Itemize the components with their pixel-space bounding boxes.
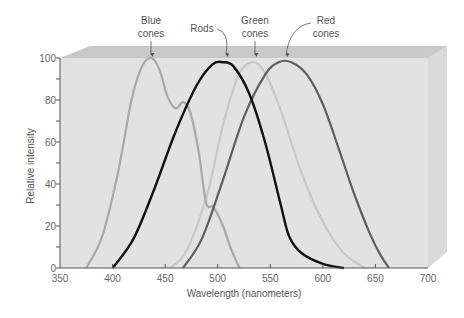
x-tick-label: 450 xyxy=(157,273,174,284)
y-ticks: 020406080100 xyxy=(39,53,60,274)
box-top-face xyxy=(60,46,447,58)
label-green-cones-line2: cones xyxy=(242,28,269,39)
label-red-cones-line2: cones xyxy=(313,28,340,39)
y-tick-label: 60 xyxy=(45,137,57,148)
label-rods: Rods xyxy=(190,23,213,34)
x-tick-label: 600 xyxy=(315,273,332,284)
label-green-cones-line1: Green xyxy=(241,15,269,26)
plot-area xyxy=(60,58,428,268)
x-tick-label: 400 xyxy=(104,273,121,284)
x-tick-label: 350 xyxy=(52,273,69,284)
label-red-cones-line1: Red xyxy=(317,15,335,26)
y-tick-label: 20 xyxy=(45,221,57,232)
y-tick-label: 80 xyxy=(45,95,57,106)
y-tick-label: 0 xyxy=(50,263,56,274)
label-blue-cones-line1: Blue xyxy=(141,15,161,26)
y-axis-title: Relative intensity xyxy=(25,128,36,204)
label-blue-cones-line2: cones xyxy=(138,28,165,39)
x-tick-label: 550 xyxy=(262,273,279,284)
x-axis-title: Wavelength (nanometers) xyxy=(187,288,302,299)
y-tick-label: 100 xyxy=(39,53,56,64)
x-tick-label: 700 xyxy=(420,273,437,284)
y-tick-label: 40 xyxy=(45,179,57,190)
x-tick-label: 650 xyxy=(367,273,384,284)
chart-canvas: 020406080100 350400450500550600650700 Wa… xyxy=(0,0,464,318)
box-right-face xyxy=(428,46,447,268)
x-tick-label: 500 xyxy=(209,273,226,284)
